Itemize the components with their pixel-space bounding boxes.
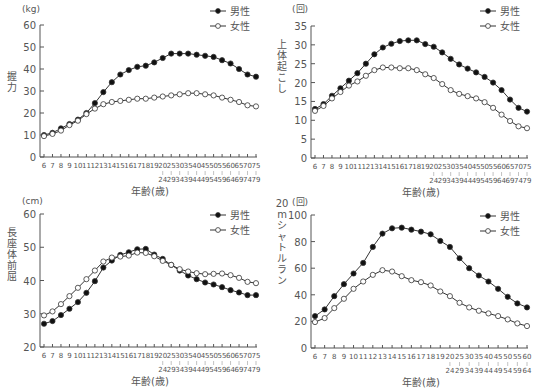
data-point bbox=[211, 271, 216, 276]
data-point bbox=[428, 232, 433, 237]
x-tick-label: 9 bbox=[342, 353, 346, 361]
legend-female: 女性 bbox=[500, 225, 520, 237]
y-tick-label: 60 bbox=[23, 20, 36, 31]
data-point bbox=[361, 260, 366, 265]
data-point bbox=[418, 280, 423, 285]
x-tick-label: 39 bbox=[474, 367, 483, 375]
x-tick-label: 6 bbox=[313, 353, 318, 361]
data-point bbox=[177, 267, 182, 272]
data-point bbox=[253, 104, 258, 109]
data-point bbox=[423, 42, 428, 47]
data-point bbox=[524, 305, 529, 310]
data-point bbox=[361, 279, 366, 284]
data-point bbox=[92, 106, 97, 111]
data-point bbox=[341, 296, 346, 301]
data-point bbox=[372, 52, 377, 57]
data-point bbox=[126, 253, 131, 258]
svg-text:ル: ル bbox=[277, 253, 287, 264]
data-point bbox=[203, 92, 208, 97]
x-axis-title: 年齢(歳) bbox=[131, 185, 169, 197]
y-tick-label: 60 bbox=[23, 209, 36, 220]
data-point bbox=[351, 271, 356, 276]
x-tick-label: 13 bbox=[378, 353, 387, 361]
data-point bbox=[312, 313, 317, 318]
data-point bbox=[490, 80, 495, 85]
data-point bbox=[505, 317, 510, 322]
svg-text:握: 握 bbox=[7, 70, 17, 82]
series-female bbox=[312, 65, 529, 131]
data-point bbox=[499, 112, 504, 117]
y-tick-label: 5 bbox=[301, 134, 307, 145]
y-tick-label: 40 bbox=[23, 64, 36, 75]
data-point bbox=[186, 51, 191, 56]
unit-label: (回) bbox=[292, 4, 308, 14]
svg-text:起: 起 bbox=[277, 61, 287, 72]
data-point bbox=[414, 38, 419, 43]
data-point bbox=[101, 265, 106, 270]
data-point bbox=[109, 255, 114, 260]
data-point bbox=[414, 68, 419, 73]
y-tick-label: 20 bbox=[294, 316, 307, 327]
x-tick-label: 9 bbox=[67, 352, 71, 360]
data-point bbox=[194, 91, 199, 96]
svg-text:力: 力 bbox=[7, 81, 17, 93]
chart-sit-and-reach: 2030405060(cm)長座体前屈678910111213141516171… bbox=[7, 196, 260, 387]
series-male bbox=[312, 225, 529, 319]
data-point bbox=[152, 60, 157, 65]
data-point bbox=[346, 83, 351, 88]
data-point bbox=[169, 93, 174, 98]
data-point bbox=[363, 61, 368, 66]
data-point bbox=[194, 277, 199, 282]
data-point bbox=[406, 66, 411, 71]
x-tick-label: 79 bbox=[523, 177, 532, 185]
data-point bbox=[515, 301, 520, 306]
data-point bbox=[495, 313, 500, 318]
y-tick-label: 80 bbox=[294, 237, 307, 248]
series-male bbox=[41, 246, 258, 326]
data-point bbox=[245, 279, 250, 284]
series-male bbox=[312, 38, 529, 114]
data-point bbox=[399, 225, 404, 230]
data-point bbox=[203, 53, 208, 58]
y-tick-label: 20 bbox=[23, 342, 36, 353]
data-point bbox=[329, 96, 334, 101]
chart-grip: 0102030405060(kg)握力678910111213141516171… bbox=[7, 4, 260, 197]
data-point bbox=[143, 250, 148, 255]
data-point bbox=[447, 244, 452, 249]
data-point bbox=[438, 289, 443, 294]
legend-female: 女性 bbox=[500, 20, 520, 32]
data-point bbox=[440, 50, 445, 55]
data-point bbox=[228, 288, 233, 293]
x-tick-label: 8 bbox=[59, 162, 63, 170]
x-tick-label: 7 bbox=[321, 163, 325, 171]
data-point bbox=[194, 271, 199, 276]
legend: 男性女性 bbox=[210, 209, 250, 236]
y-tick-label: 50 bbox=[23, 42, 36, 53]
data-point bbox=[380, 65, 385, 70]
data-point bbox=[219, 271, 224, 276]
x-tick-label: 75 bbox=[252, 352, 261, 360]
y-tick-label: 0 bbox=[301, 343, 307, 354]
data-point bbox=[253, 293, 258, 298]
x-tick-label: 30 bbox=[465, 353, 474, 361]
data-point bbox=[169, 262, 174, 267]
y-tick-label: 35 bbox=[294, 21, 307, 32]
data-point bbox=[186, 269, 191, 274]
data-point bbox=[211, 93, 216, 98]
data-point bbox=[341, 282, 346, 287]
svg-text:体: 体 bbox=[7, 249, 17, 260]
data-point bbox=[126, 68, 131, 73]
svg-text:ト: ト bbox=[277, 242, 287, 253]
data-point bbox=[495, 286, 500, 291]
y-tick-label: 50 bbox=[23, 242, 36, 253]
charts-figure: 0102030405060(kg)握力678910111213141516171… bbox=[0, 0, 538, 392]
data-point bbox=[67, 294, 72, 299]
data-point bbox=[143, 96, 148, 101]
y-axis-title: 20mシャトルラン bbox=[276, 198, 289, 286]
y-tick-label: 25 bbox=[294, 59, 307, 70]
data-point bbox=[41, 134, 46, 139]
x-tick-label: 19 bbox=[436, 353, 445, 361]
data-point bbox=[332, 306, 337, 311]
legend-male: 男性 bbox=[230, 5, 250, 17]
x-tick-label: 10 bbox=[349, 353, 358, 361]
